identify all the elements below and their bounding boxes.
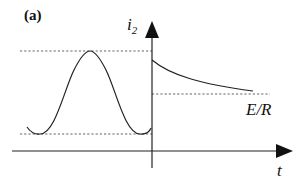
sinusoidal-current-curve — [27, 51, 151, 134]
panel-label: (a) — [24, 7, 42, 24]
exponential-decay-curve — [152, 60, 253, 91]
x-axis-arrow-icon — [276, 144, 293, 158]
steady-state-label: E/R — [245, 100, 272, 119]
y-axis-arrow-icon — [145, 21, 159, 38]
x-axis-label: t — [277, 161, 283, 180]
circuit-current-diagram: (a) i2 E/R t — [0, 0, 303, 189]
y-axis-label: i2 — [127, 15, 138, 36]
